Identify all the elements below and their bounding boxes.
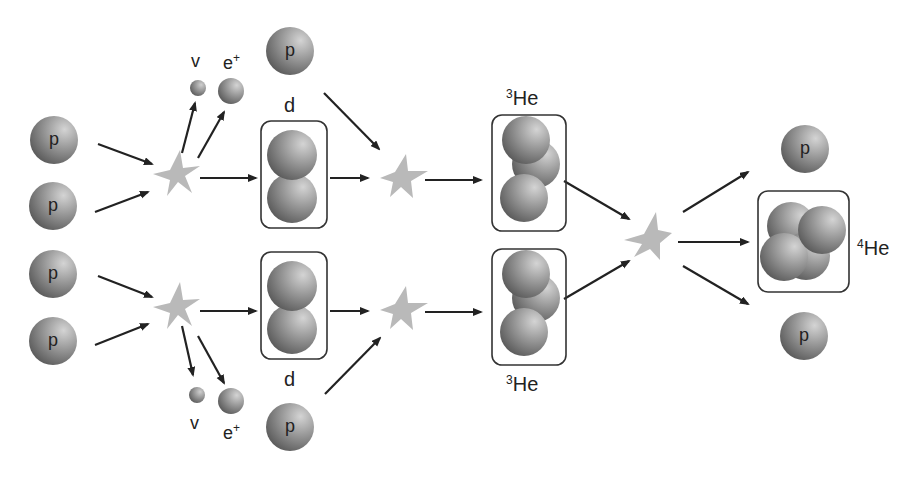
deuteron-top [261,121,327,228]
star-icon [153,150,200,196]
neutrino-label: v [190,414,199,432]
helium3-label: 3He [506,88,538,108]
neutrino-label: v [191,52,200,70]
proton-label: p [48,196,58,214]
proton-label: p [800,139,810,157]
positron-bottom [218,388,244,414]
positron-top [218,78,244,104]
proton-label: p [48,264,58,282]
helium3-bottom [492,249,566,365]
positron-label: e+ [223,52,240,72]
positron-label: e+ [223,422,240,442]
deuteron-bottom [261,252,327,359]
proton-label: p [49,130,59,148]
star-icon [380,286,428,330]
proton-label: p [48,331,58,349]
deuteron-label: d [284,95,295,115]
proton-label: p [285,417,295,435]
helium4-label: 4He [857,238,889,258]
helium3-top [492,115,566,231]
star-icon [624,212,672,260]
proton-label: p [799,326,809,344]
deuteron-label: d [284,369,295,389]
star-icon [380,154,428,198]
proton-label: p [285,41,295,59]
neutrino-bottom [189,387,205,403]
pp-chain-diagram [0,0,923,478]
star-icon [153,282,200,329]
helium4 [758,191,849,292]
neutrino-top [190,80,206,96]
helium3-label: 3He [506,374,538,394]
